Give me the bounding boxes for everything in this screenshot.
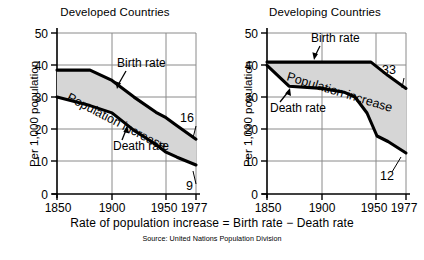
x-axis-ticks-left bbox=[57, 194, 196, 200]
x-axis-ticks-right bbox=[267, 194, 406, 200]
x-axis-tick-labels-left: 1850 1900 1950 1977 bbox=[45, 201, 208, 215]
chart-panel-developed: Developed Countries Per 1,000 population bbox=[0, 0, 212, 215]
plot-area-developed: 50 40 30 20 10 0 1850 1900 1950 bbox=[0, 0, 212, 215]
ytick-30-left: 30 bbox=[35, 91, 49, 105]
ytick-40-right: 40 bbox=[245, 59, 259, 73]
ytick-10-left: 10 bbox=[35, 155, 49, 169]
xtick-1850-right: 1850 bbox=[255, 201, 282, 215]
y-axis-ticks-right bbox=[261, 33, 267, 194]
birth-rate-annotation-left: Birth rate bbox=[117, 56, 166, 70]
y-axis-tick-labels-right: 50 40 30 20 10 0 bbox=[245, 27, 259, 202]
birth-rate-annotation-right: Birth rate bbox=[311, 31, 360, 45]
ytick-40-left: 40 bbox=[35, 59, 49, 73]
ytick-10-right: 10 bbox=[245, 155, 259, 169]
death-rate-annotation-right: Death rate bbox=[270, 101, 326, 115]
y-axis-ticks-left bbox=[51, 33, 57, 194]
xtick-1900-right: 1900 bbox=[309, 201, 336, 215]
xtick-1977-right: 1977 bbox=[391, 201, 418, 215]
chart-panel-developing: Developing Countries Per 1,000 populatio… bbox=[212, 0, 424, 215]
ytick-20-right: 20 bbox=[245, 123, 259, 137]
birth-rate-arrowhead-right bbox=[312, 52, 318, 60]
plot-area-developing: 50 40 30 20 10 0 1850 1900 1950 bbox=[212, 0, 424, 215]
xtick-1977-left: 1977 bbox=[181, 201, 208, 215]
ytick-50-left: 50 bbox=[35, 27, 49, 41]
ytick-0-left: 0 bbox=[41, 188, 48, 202]
ytick-20-left: 20 bbox=[35, 123, 49, 137]
death-rate-annotation-left: Death rate bbox=[113, 139, 169, 153]
ytick-30-right: 30 bbox=[245, 91, 259, 105]
figure-source: Source: United Nations Population Divisi… bbox=[0, 234, 424, 243]
birth-rate-end-value-left: 16 bbox=[180, 111, 194, 125]
xtick-1900-left: 1900 bbox=[99, 201, 126, 215]
xtick-1850-left: 1850 bbox=[45, 201, 72, 215]
charts-row: Developed Countries Per 1,000 population bbox=[0, 0, 424, 215]
death-rate-end-value-right: 12 bbox=[380, 169, 394, 183]
population-rates-figure: Developed Countries Per 1,000 population bbox=[0, 0, 424, 260]
birth-rate-end-value-right: 33 bbox=[382, 63, 396, 77]
death-rate-end-value-left: 9 bbox=[186, 179, 193, 193]
y-axis-tick-labels-left: 50 40 30 20 10 0 bbox=[35, 27, 49, 202]
ytick-50-right: 50 bbox=[245, 27, 259, 41]
figure-caption-block: Rate of population increase = Birth rate… bbox=[0, 216, 424, 243]
xtick-1950-right: 1950 bbox=[361, 201, 388, 215]
xtick-1950-left: 1950 bbox=[151, 201, 178, 215]
figure-caption: Rate of population increase = Birth rate… bbox=[0, 216, 424, 230]
ytick-0-right: 0 bbox=[251, 188, 258, 202]
x-axis-tick-labels-right: 1850 1900 1950 1977 bbox=[255, 201, 418, 215]
death-rate-end-leader-right bbox=[392, 157, 401, 172]
